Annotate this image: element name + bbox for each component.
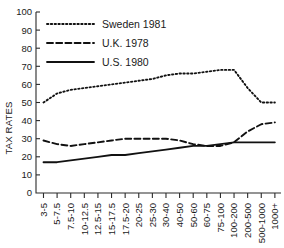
x-tick-label: 30-40 [160,203,171,227]
y-tick-label: 10 [21,169,32,180]
legend-label: Sweden 1981 [102,18,166,30]
x-tick-label: 7.5-10 [65,203,76,230]
x-tick-label: 17.5-20 [120,203,131,235]
x-tick-label: 12.5-15 [92,203,103,235]
y-axis-tick-labels: 1020304050607080901000 [16,6,32,198]
y-axis-tick-marks [36,12,40,175]
y-tick-label: 0 [27,187,32,198]
x-tick-label: 100-200 [228,203,239,238]
x-tick-label: 75-100 [215,203,226,233]
x-tick-label: 25-30 [147,203,158,227]
y-tick-label: 30 [21,133,32,144]
x-axis-tick-labels: 3-55-7.57.5-1010-12.512.5-1515-17.517.5-… [38,203,280,244]
y-tick-label: 40 [21,115,32,126]
x-tick-label: 20-25 [133,203,144,227]
series-line-sweden-1981 [43,70,274,103]
x-tick-label: 1000+ [269,203,280,230]
y-tick-label: 80 [21,43,32,54]
x-tick-label: 200-500 [242,203,253,238]
y-tick-label: 50 [21,97,32,108]
x-tick-label: 3-5 [38,203,49,217]
chart-canvas: 1020304050607080901000 TAX RATES 3-55-7.… [0,0,284,248]
x-tick-label: 60-75 [201,203,212,227]
chart-legend: Sweden 1981U.K. 1978U.S. 1980 [47,18,166,68]
y-axis-title: TAX RATES [3,101,14,154]
y-tick-label: 100 [16,6,32,17]
x-tick-label: 15-17.5 [106,203,117,235]
y-tick-label: 90 [21,25,32,36]
x-tick-label: 50-60 [188,203,199,227]
legend-label: U.S. 1980 [102,56,149,68]
y-tick-label: 70 [21,61,32,72]
legend-label: U.K. 1978 [102,37,149,49]
y-tick-label: 60 [21,79,32,90]
x-tick-label: 10-12.5 [79,203,90,235]
y-tick-label: 20 [21,151,32,162]
axis-lines [36,12,281,193]
x-tick-label: 500-1000 [256,203,267,243]
x-axis-tick-marks [43,193,274,198]
chart-figure: 1020304050607080901000 TAX RATES 3-55-7.… [0,0,284,248]
series-line-u-s-1980 [43,142,274,162]
x-tick-label: 5-7.5 [51,203,62,225]
x-tick-label: 40-50 [174,203,185,227]
data-series-group [43,70,274,162]
